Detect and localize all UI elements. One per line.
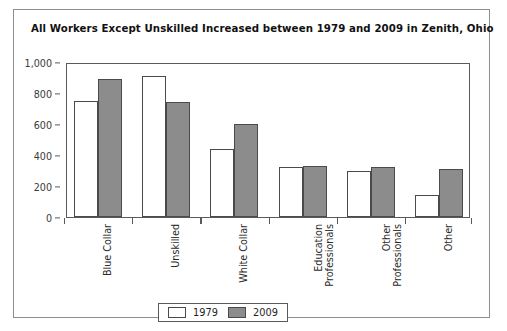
bar-group: [279, 64, 327, 217]
y-tick-label: 400: [34, 151, 52, 162]
x-category-label-line: Other: [381, 224, 392, 251]
y-tick-mark: [55, 155, 60, 156]
x-category-label-line: Other: [443, 224, 454, 251]
legend-label: 1979: [193, 307, 218, 318]
legend-swatch-1979: [168, 307, 186, 318]
x-category-label: White Collar: [238, 224, 249, 302]
bar-1979-other-professionals: [347, 171, 371, 218]
x-category-label-line: Unskilled: [170, 224, 181, 268]
x-category-label-line: Education: [313, 224, 324, 272]
bar-2009-education-professionals: [303, 166, 327, 217]
bar-group: [347, 64, 395, 217]
x-category-label: Blue Collar: [102, 224, 113, 302]
x-tick-mark: [64, 218, 65, 224]
bar-1979-other: [415, 195, 439, 217]
y-axis: 02004006008001,000: [14, 57, 60, 224]
bar-2009-white-collar: [234, 124, 258, 217]
legend-entry-2009: 2009: [228, 307, 278, 318]
x-category-label: OtherProfessionals: [381, 224, 403, 302]
bar-group: [142, 64, 190, 217]
y-tick-label: 1,000: [25, 58, 52, 69]
x-axis-labels: Blue CollarUnskilledWhite CollarEducatio…: [66, 224, 470, 302]
bar-2009-other: [439, 169, 463, 217]
y-tick-label: 800: [34, 89, 52, 100]
chart-figure: All Workers Except Unskilled Increased b…: [13, 9, 490, 318]
y-tick-label: 0: [46, 213, 52, 224]
bar-1979-education-professionals: [279, 167, 303, 217]
y-tick-mark: [55, 93, 60, 94]
x-category-label-line: Professionals: [392, 224, 403, 302]
plot-area: [66, 63, 470, 218]
y-tick-label: 200: [34, 182, 52, 193]
y-tick-label: 600: [34, 120, 52, 131]
bar-group: [415, 64, 463, 217]
legend-entry-1979: 1979: [168, 307, 218, 318]
x-category-label: Other: [443, 224, 454, 302]
y-tick-mark: [55, 124, 60, 125]
x-category-label-line: Professionals: [324, 224, 335, 302]
bar-1979-white-collar: [210, 149, 234, 217]
legend-label: 2009: [253, 307, 278, 318]
bar-1979-blue-collar: [74, 101, 98, 217]
bar-group: [74, 64, 122, 217]
bar-1979-unskilled: [142, 76, 166, 217]
legend-swatch-2009: [228, 307, 246, 318]
chart-title: All Workers Except Unskilled Increased b…: [31, 23, 494, 34]
bar-2009-unskilled: [166, 102, 190, 217]
y-tick-mark: [55, 186, 60, 187]
y-tick-mark: [55, 217, 60, 218]
x-category-label-line: White Collar: [238, 224, 249, 283]
y-tick-mark: [55, 62, 60, 63]
x-category-label-line: Blue Collar: [102, 224, 113, 276]
x-category-label: EducationProfessionals: [313, 224, 335, 302]
bar-2009-blue-collar: [98, 79, 122, 217]
bar-2009-other-professionals: [371, 167, 395, 217]
bar-group: [210, 64, 258, 217]
x-tick-mark: [471, 218, 472, 224]
bars-layer: [67, 64, 469, 217]
chart-legend: 19792009: [158, 303, 288, 322]
x-category-label: Unskilled: [170, 224, 181, 302]
